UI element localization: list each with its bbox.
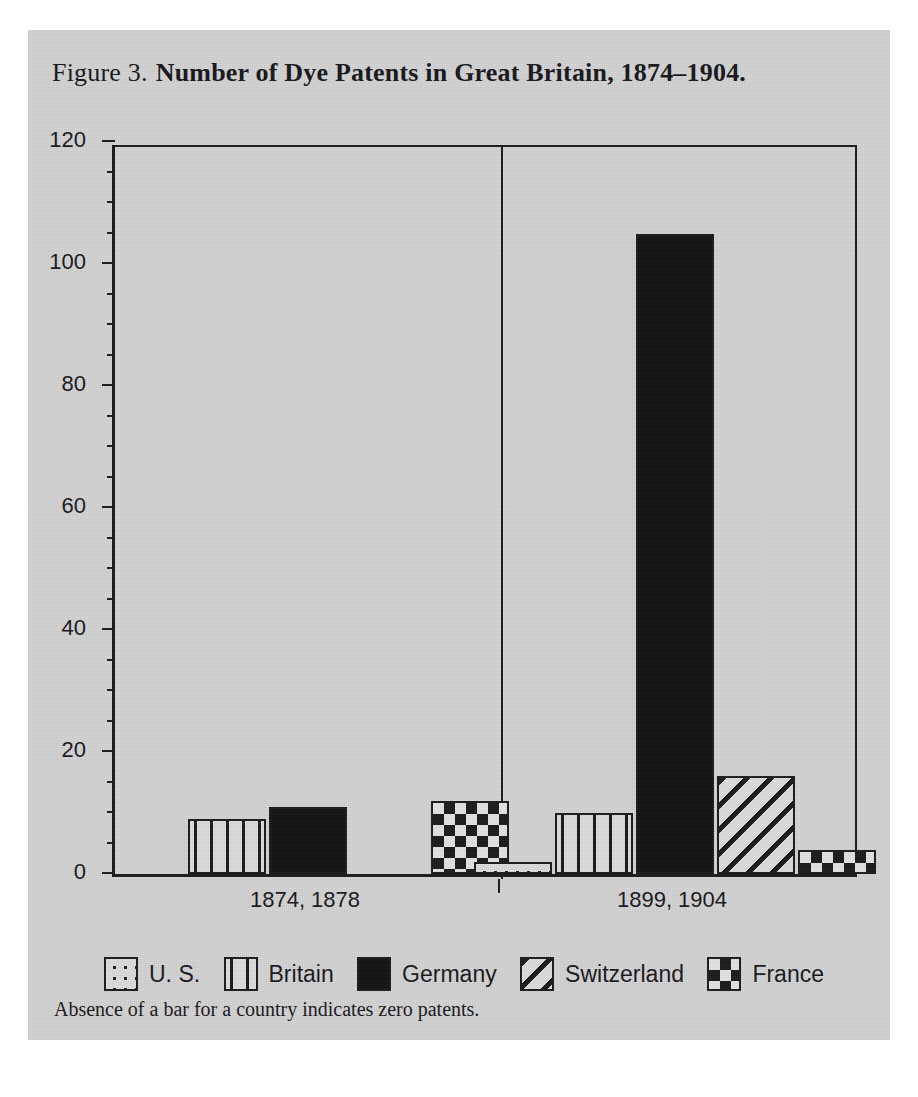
figure-label: Figure 3. bbox=[52, 58, 148, 87]
bar-switzerland-group-2 bbox=[717, 776, 795, 874]
y-axis-tick-major: 100 bbox=[102, 262, 115, 264]
y-axis-tick-major: 60 bbox=[102, 506, 115, 508]
legend-swatch-checkerboard-icon bbox=[707, 957, 741, 991]
legend-item: U. S. bbox=[104, 957, 200, 991]
figure-plate: Figure 3.Number of Dye Patents in Great … bbox=[28, 30, 890, 1040]
bar-germany-group-1 bbox=[269, 807, 347, 874]
x-axis-divider-tick bbox=[498, 879, 500, 893]
legend-item: Switzerland bbox=[520, 957, 684, 991]
legend-swatch-dots-icon bbox=[104, 957, 138, 991]
legend-swatch-diagonal-hatch-icon bbox=[520, 957, 554, 991]
y-axis-tick-minor bbox=[107, 445, 115, 447]
y-axis-tick-minor bbox=[107, 842, 115, 844]
bar-germany-group-2 bbox=[636, 234, 714, 875]
bar-britain-group-2 bbox=[555, 813, 633, 874]
y-axis-tick-minor bbox=[107, 567, 115, 569]
y-axis-tick-major: 20 bbox=[102, 750, 115, 752]
y-axis-tick-minor bbox=[107, 811, 115, 813]
y-axis-tick-minor bbox=[107, 323, 115, 325]
y-axis-tick-label: 60 bbox=[62, 493, 86, 519]
chart-legend: U. S.BritainGermanySwitzerlandFrance bbox=[104, 957, 824, 991]
x-axis-category-label: 1874, 1878 bbox=[250, 887, 360, 913]
legend-swatch-solid-black-icon bbox=[357, 957, 391, 991]
y-axis-tick-minor bbox=[107, 659, 115, 661]
y-axis-tick-minor bbox=[107, 232, 115, 234]
y-axis-tick-major: 120 bbox=[102, 140, 115, 142]
y-axis-tick-minor bbox=[107, 537, 115, 539]
y-axis-tick-minor bbox=[107, 201, 115, 203]
chart-plot-frame: 020406080100120 bbox=[112, 145, 857, 877]
legend-label: France bbox=[752, 961, 824, 988]
y-axis-tick-minor bbox=[107, 476, 115, 478]
figure-footnote: Absence of a bar for a country indicates… bbox=[54, 998, 479, 1021]
y-axis-tick-label: 120 bbox=[49, 127, 86, 153]
y-axis-tick-major: 0 bbox=[102, 872, 115, 874]
bar-france-group-2 bbox=[798, 850, 876, 874]
y-axis-tick-major: 80 bbox=[102, 384, 115, 386]
y-axis-tick-minor bbox=[107, 415, 115, 417]
y-axis-tick-minor bbox=[107, 293, 115, 295]
x-axis-category-label: 1899, 1904 bbox=[617, 887, 727, 913]
y-axis-tick-label: 40 bbox=[62, 615, 86, 641]
bar-u-s-group-2 bbox=[474, 862, 552, 874]
y-axis-tick-minor bbox=[107, 598, 115, 600]
y-axis-tick-major: 40 bbox=[102, 628, 115, 630]
figure-caption: Figure 3.Number of Dye Patents in Great … bbox=[52, 58, 746, 88]
y-axis-tick-minor bbox=[107, 781, 115, 783]
plot-area bbox=[115, 147, 855, 874]
y-axis-tick-minor bbox=[107, 689, 115, 691]
legend-item: France bbox=[707, 957, 824, 991]
y-axis-tick-minor bbox=[107, 354, 115, 356]
bar-britain-group-1 bbox=[188, 819, 266, 874]
legend-item: Britain bbox=[224, 957, 334, 991]
y-axis-tick-label: 0 bbox=[74, 859, 86, 885]
legend-swatch-vertical-lines-icon bbox=[224, 957, 258, 991]
y-axis-tick-label: 20 bbox=[62, 737, 86, 763]
legend-item: Germany bbox=[357, 957, 497, 991]
legend-label: Britain bbox=[269, 961, 334, 988]
legend-label: Switzerland bbox=[565, 961, 684, 988]
legend-label: U. S. bbox=[149, 961, 200, 988]
y-axis-tick-label: 80 bbox=[62, 371, 86, 397]
y-axis-tick-label: 100 bbox=[49, 249, 86, 275]
legend-label: Germany bbox=[402, 961, 497, 988]
y-axis-tick-minor bbox=[107, 720, 115, 722]
y-axis-tick-minor bbox=[107, 171, 115, 173]
figure-title: Number of Dye Patents in Great Britain, … bbox=[156, 58, 746, 87]
